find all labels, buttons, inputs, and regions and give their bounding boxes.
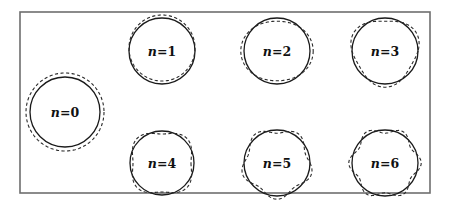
modes-group: n=0n=1n=2n=3n=4n=5n=6: [26, 15, 421, 199]
mode-n6: n=6: [349, 130, 421, 196]
mode-n5: n=5: [242, 130, 312, 199]
mode-n0: n=0: [26, 73, 104, 151]
mode-label: n=3: [371, 44, 399, 59]
mode-diagram: n=0n=1n=2n=3n=4n=5n=6: [0, 0, 453, 206]
mode-n1: n=1: [129, 15, 195, 84]
mode-label: n=1: [148, 44, 176, 59]
figure-frame: [20, 12, 430, 193]
mode-n3: n=3: [351, 18, 419, 87]
mode-label: n=6: [371, 156, 400, 171]
mode-label: n=2: [263, 44, 291, 59]
mode-label: n=5: [263, 156, 291, 171]
mode-label: n=0: [51, 105, 80, 120]
mode-n4: n=4: [130, 131, 194, 195]
mode-label: n=4: [148, 156, 177, 171]
mode-n2: n=2: [241, 18, 313, 84]
